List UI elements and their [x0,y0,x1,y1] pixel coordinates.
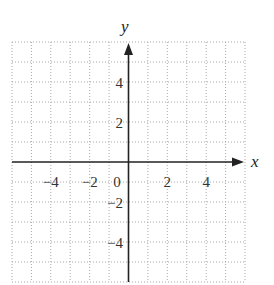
x-tick-label: 2 [164,174,172,190]
y-tick-label: −2 [107,195,123,211]
x-axis-label: x [250,152,259,171]
x-tick-label: −4 [43,174,59,190]
y-tick-label: 4 [116,75,124,91]
x-tick-label: −2 [82,174,98,190]
y-axis-arrow-icon [124,43,133,55]
y-tick-label: −4 [107,235,123,251]
x-tick-label: 4 [202,174,210,190]
x-axis-arrow-icon [232,158,244,167]
y-tick-label: 2 [116,115,124,131]
coordinate-plane: x y −4 −2 0 2 4 4 2 −2 −4 [0,0,274,285]
origin-label: 0 [113,174,121,190]
y-axis-label: y [119,17,129,36]
